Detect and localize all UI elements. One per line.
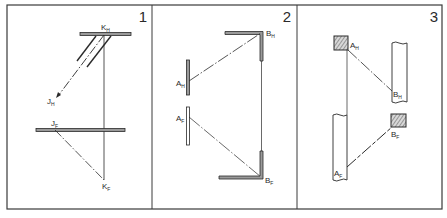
af-bar bbox=[187, 107, 190, 145]
label-kf: KF bbox=[102, 182, 110, 192]
kh-bar bbox=[80, 33, 131, 36]
ah-bh-line bbox=[189, 33, 261, 81]
panel-3: 3 AH BH AF BF bbox=[333, 8, 438, 181]
oblique-strokes bbox=[77, 36, 111, 67]
label-bf: BF bbox=[265, 176, 273, 186]
panel-1: 1 KH JH JF KF bbox=[36, 8, 147, 192]
panel-number-1: 1 bbox=[139, 8, 147, 25]
panel-number-2: 2 bbox=[283, 8, 291, 25]
bf-angle bbox=[219, 151, 263, 179]
panel-2: 2 BH AH AF BF bbox=[176, 8, 291, 186]
ah-section bbox=[334, 36, 348, 50]
label-kh: KH bbox=[101, 23, 110, 33]
ah-bar bbox=[187, 60, 190, 95]
jf-kf-line bbox=[55, 130, 104, 180]
jf-bar bbox=[36, 129, 125, 132]
af-bf-line bbox=[189, 117, 261, 177]
bf-section bbox=[391, 114, 406, 127]
label-jh: JH bbox=[47, 97, 55, 107]
label-ah: AH bbox=[176, 79, 185, 89]
label-af: AF bbox=[176, 114, 184, 124]
af-bf-line-3 bbox=[347, 127, 392, 167]
label-ah-3: AH bbox=[350, 41, 359, 51]
label-bf-3: BF bbox=[391, 130, 399, 140]
panel-number-3: 3 bbox=[430, 8, 438, 25]
kh-jh-line bbox=[58, 35, 104, 96]
label-jf: JF bbox=[51, 119, 58, 129]
projection-figure: 1 KH JH JF KF 2 bbox=[0, 0, 447, 218]
ah-bh-line-3 bbox=[348, 50, 392, 91]
label-bh: BH bbox=[266, 29, 275, 39]
